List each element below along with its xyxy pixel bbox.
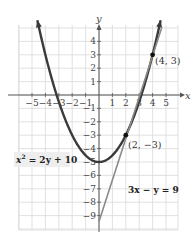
svg-text:5: 5 (163, 98, 169, 108)
svg-text:2: 2 (90, 63, 96, 73)
svg-text:−1: −1 (83, 103, 96, 113)
svg-text:1: 1 (110, 98, 116, 108)
svg-text:−4: −4 (39, 98, 53, 108)
svg-text:−2: −2 (83, 117, 96, 127)
point-label-2-neg3: (2, −3) (128, 139, 162, 150)
point-label-4-3: (4, 3) (155, 55, 181, 66)
line-equation: 3x − y = 9 (128, 185, 179, 195)
svg-text:2: 2 (123, 98, 129, 108)
svg-text:−7: −7 (83, 184, 97, 194)
svg-text:−9: −9 (83, 211, 97, 221)
svg-text:−4: −4 (83, 144, 97, 154)
x-axis-label: x (185, 90, 191, 101)
intersection-point (123, 133, 128, 138)
svg-text:3: 3 (90, 50, 96, 60)
svg-text:−8: −8 (83, 197, 97, 207)
svg-text:−2: −2 (66, 98, 79, 108)
svg-text:4: 4 (150, 98, 156, 108)
svg-text:4: 4 (90, 36, 96, 46)
y-axis-label: y (95, 13, 102, 24)
svg-text:−3: −3 (83, 130, 97, 140)
svg-text:1: 1 (90, 77, 96, 87)
graph: −5−4−3−2−1123454321−1−2−3−4−5−6−7−8−9 x … (0, 0, 195, 242)
svg-text:−6: −6 (83, 170, 97, 180)
svg-text:−5: −5 (25, 98, 39, 108)
